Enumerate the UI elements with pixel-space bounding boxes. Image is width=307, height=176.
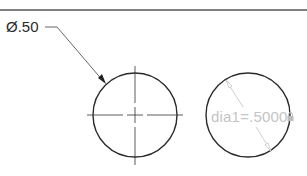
- parametric-dimension-text[interactable]: dia1=.5000: [211, 108, 288, 125]
- dimension-leader[interactable]: [45, 27, 104, 82]
- lock-icon[interactable]: [287, 112, 294, 121]
- diameter-dimension-text[interactable]: Ø.50: [6, 18, 39, 35]
- leader-arrowhead: [98, 74, 106, 84]
- drawing-canvas[interactable]: [0, 0, 307, 176]
